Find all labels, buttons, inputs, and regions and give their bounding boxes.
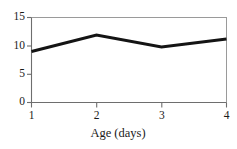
y-axis-ticks	[27, 18, 32, 103]
plot-frame	[31, 17, 227, 103]
line-chart: 15 10 5 0 1 2 3 4 Age (days)	[0, 0, 236, 149]
x-axis-title: Age (days)	[0, 127, 236, 140]
x-axis-ticks	[32, 103, 227, 108]
y-tick-label-0: 0	[8, 96, 25, 108]
x-tick-label-2: 2	[87, 110, 107, 122]
x-tick-label-1: 1	[22, 110, 42, 122]
y-tick-label-10: 10	[8, 40, 25, 52]
y-tick-label-15: 15	[8, 11, 25, 23]
x-tick-label-3: 3	[152, 110, 172, 122]
x-tick-label-4: 4	[217, 110, 237, 122]
data-line-series-1	[32, 35, 227, 51]
y-tick-label-5: 5	[8, 68, 25, 80]
